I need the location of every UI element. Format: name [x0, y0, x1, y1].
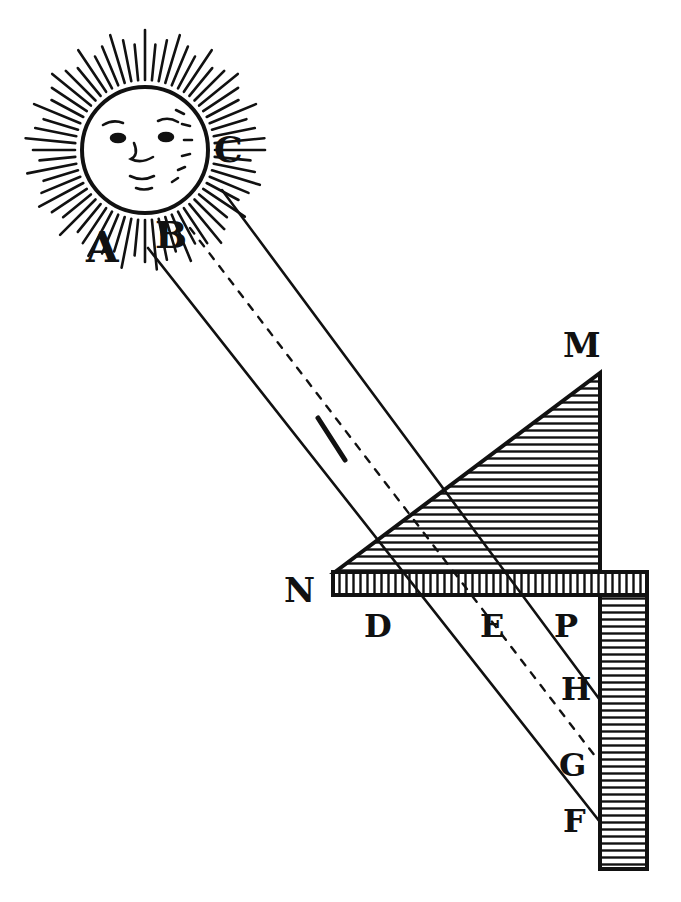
label-E: E	[480, 607, 504, 645]
sun: A B C	[26, 30, 265, 272]
label-C: C	[214, 128, 243, 170]
label-H: H	[561, 670, 591, 708]
sundial-diagram: A B C M N D E P H G F	[0, 0, 681, 902]
label-P: P	[554, 607, 578, 645]
label-A: A	[85, 223, 120, 272]
label-F: F	[563, 802, 586, 840]
label-G: G	[559, 746, 586, 784]
label-M: M	[563, 325, 601, 365]
sun-disc	[82, 87, 208, 213]
vertical-scale-bar	[600, 595, 647, 869]
label-D: D	[364, 607, 392, 645]
label-B: B	[155, 212, 187, 257]
label-N: N	[284, 570, 315, 610]
gnomon-triangle	[335, 373, 600, 572]
horizontal-scale-bar	[333, 572, 647, 595]
